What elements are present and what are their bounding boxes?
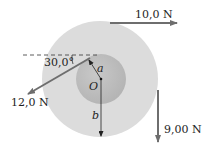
force-label-9n: 9,00 N	[164, 123, 202, 136]
radius-a-label: a	[97, 62, 104, 75]
center-point	[100, 78, 103, 81]
angle-label: 30,0°	[44, 56, 74, 69]
center-label: O	[89, 80, 98, 93]
radius-b-label: b	[92, 109, 99, 122]
force-diagram: 10,0 N 12,0 N 9,00 N 30,0° a O b	[0, 0, 209, 149]
force-label-12n: 12,0 N	[11, 96, 49, 109]
force-label-10n: 10,0 N	[135, 8, 173, 21]
